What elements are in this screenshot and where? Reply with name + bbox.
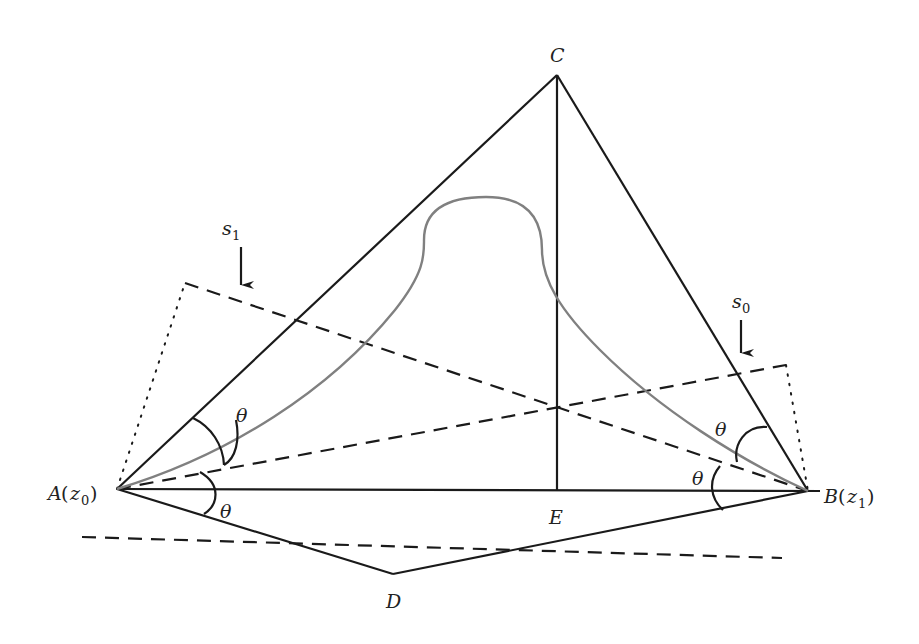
label-B: B ( z 1 ): [823, 485, 874, 511]
geometry-diagram: C E D A ( z 0 ) B ( z 1 ) s 1 s 0 θ θ θ …: [0, 0, 919, 644]
dashed-line-s0: [117, 365, 786, 489]
label-D: D: [385, 590, 401, 612]
label-E: E: [548, 506, 563, 528]
svg-text:(: (: [838, 485, 845, 507]
svg-text:B: B: [823, 485, 838, 507]
segment-AB: [117, 489, 820, 491]
angle-arc-A-lower: [200, 472, 216, 514]
svg-text:1: 1: [232, 228, 240, 243]
angle-arc-B-lower: [712, 466, 723, 510]
svg-text:A: A: [46, 482, 62, 504]
theta-label-B-lower: θ: [692, 467, 704, 489]
theta-label-A-lower: θ: [220, 500, 232, 522]
svg-text:s: s: [222, 217, 232, 239]
svg-text:): ): [867, 485, 874, 507]
segment-AC: [117, 75, 557, 489]
svg-text:(: (: [61, 482, 68, 504]
dashed-line-bottom: [82, 537, 782, 558]
segment-DB: [393, 491, 808, 574]
svg-text:0: 0: [742, 301, 750, 316]
svg-text:0: 0: [81, 493, 89, 508]
svg-text:z: z: [69, 482, 81, 504]
label-s1: s 1: [222, 217, 240, 243]
theta-label-A-upper: θ: [236, 404, 248, 426]
segment-AD: [117, 489, 393, 574]
theta-label-B-upper: θ: [715, 418, 727, 440]
svg-text:s: s: [732, 290, 742, 312]
svg-text:z: z: [846, 485, 858, 507]
label-C: C: [550, 44, 565, 66]
svg-text:): ): [90, 482, 97, 504]
segment-BC: [557, 75, 808, 491]
svg-text:1: 1: [858, 496, 866, 511]
label-s0: s 0: [732, 290, 750, 316]
label-A: A ( z 0 ): [46, 482, 97, 508]
